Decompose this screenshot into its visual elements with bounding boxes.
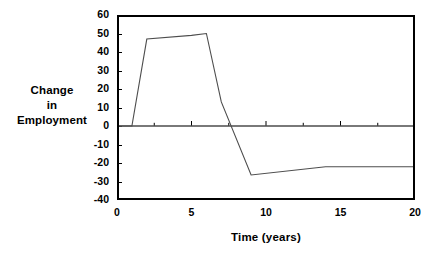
y-tick-label: 20 xyxy=(83,82,109,94)
y-tick-label: 40 xyxy=(83,45,109,57)
x-tick-label: 15 xyxy=(326,206,356,218)
y-tick-label: -20 xyxy=(83,156,109,168)
y-tick-label: 10 xyxy=(83,101,109,113)
x-tick-label: 10 xyxy=(251,206,281,218)
x-axis-title: Time (years) xyxy=(117,231,415,243)
y-tick-label: 30 xyxy=(83,64,109,76)
x-tick-label: 20 xyxy=(400,206,430,218)
y-tick-label: 50 xyxy=(83,27,109,39)
plot-area xyxy=(117,15,415,200)
y-tick-label: 60 xyxy=(83,8,109,20)
x-tick-label: 5 xyxy=(177,206,207,218)
y-tick-label: -10 xyxy=(83,138,109,150)
x-tick-label: 0 xyxy=(102,206,132,218)
y-tick-label: -30 xyxy=(83,175,109,187)
chart-figure: Change in Employment -40-30-20-100102030… xyxy=(0,0,437,260)
plot-frame-border xyxy=(117,15,415,200)
y-tick-label: -40 xyxy=(83,193,109,205)
y-tick-label: 0 xyxy=(83,119,109,131)
